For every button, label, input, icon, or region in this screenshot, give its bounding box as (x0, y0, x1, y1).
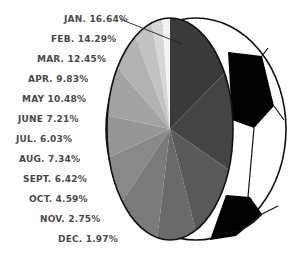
label-sep: SEPT. 6.42% (23, 174, 87, 184)
label-jan: JAN. 16.64% (64, 14, 128, 24)
label-oct: OCT. 4.59% (29, 194, 88, 204)
label-jul: JUL. 6.03% (16, 134, 72, 144)
label-apr: APR. 9.83% (28, 74, 88, 84)
label-may: MAY 10.48% (22, 94, 86, 104)
label-mar: MAR. 12.45% (37, 54, 106, 64)
label-jun: JUNE 7.21% (18, 114, 79, 124)
label-aug: AUG. 7.34% (19, 154, 80, 164)
label-feb: FEB. 14.29% (51, 34, 116, 44)
label-nov: NOV. 2.75% (40, 214, 101, 224)
label-dec: DEC. 1.97% (58, 234, 118, 244)
